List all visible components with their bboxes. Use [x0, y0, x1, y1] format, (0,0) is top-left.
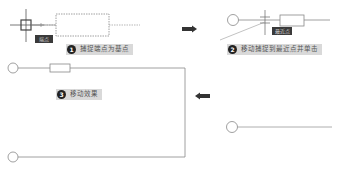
- panel-original-line: [227, 122, 333, 133]
- step-1-badge: 1: [67, 45, 76, 54]
- diagram-canvas: [0, 0, 346, 174]
- step-3-text: 移动效果: [70, 89, 98, 100]
- endpoint-tag: 端点: [35, 35, 53, 43]
- step-1-label: 1 捕捉端点为基点: [66, 44, 133, 55]
- ghost-rectangle: [56, 14, 109, 36]
- step-3-label: 3 移动效果: [56, 89, 102, 100]
- arrow-right-icon: [182, 26, 197, 33]
- step-3-badge: 3: [57, 90, 66, 99]
- step-2-label: 2 移动捕捉到最近点并单击: [227, 44, 322, 55]
- step-1-text: 捕捉端点为基点: [80, 44, 129, 55]
- panel-2-nearest-point: [220, 10, 330, 40]
- panel-3-result: [8, 63, 185, 162]
- step-2-badge: 2: [228, 45, 237, 54]
- nearest-point-tag: 最近点: [272, 27, 292, 35]
- arrow-left-icon: [195, 93, 210, 100]
- panel-1-base-point: [10, 9, 140, 42]
- step-2-text: 移动捕捉到最近点并单击: [241, 44, 318, 55]
